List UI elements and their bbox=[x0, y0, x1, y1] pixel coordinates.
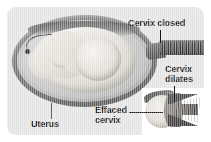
leader-line-cervix-dilates bbox=[174, 86, 175, 102]
label-cervix-closed: Cervix closed bbox=[128, 19, 185, 29]
cervix-external-os bbox=[203, 40, 204, 55]
uterus-illustration bbox=[12, 15, 157, 107]
label-effaced-cervix: Effaced cervix bbox=[95, 106, 127, 125]
cord-insertion-point bbox=[25, 49, 30, 54]
label-uterus: Uterus bbox=[31, 120, 59, 130]
leader-line-uterus bbox=[51, 103, 52, 119]
label-cervix-dilates: Cervix dilates bbox=[165, 65, 193, 84]
illustration-canvas: Cervix closed Cervix dilates Effaced cer… bbox=[0, 0, 211, 142]
cervix-canal-ridges bbox=[160, 42, 204, 53]
leader-line-effaced-cervix bbox=[129, 112, 163, 113]
diagram-panel: Cervix closed Cervix dilates Effaced cer… bbox=[7, 7, 204, 135]
fetus-head bbox=[75, 37, 121, 81]
leader-line-cervix-closed bbox=[160, 30, 161, 43]
